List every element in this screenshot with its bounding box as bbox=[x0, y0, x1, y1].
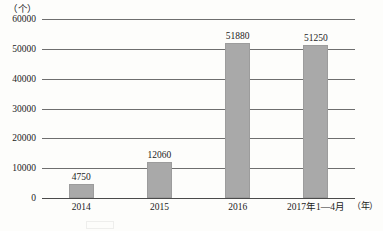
bar-value-label: 51250 bbox=[286, 33, 346, 44]
scan-artifact bbox=[86, 221, 114, 229]
x-axis-tick-label: 2014 bbox=[36, 201, 126, 213]
axis-baseline bbox=[42, 198, 355, 199]
bar-value-label: 4750 bbox=[51, 172, 111, 183]
bar bbox=[225, 43, 250, 198]
y-axis-tick-label: 10000 bbox=[2, 163, 36, 173]
y-axis-tick-label: 60000 bbox=[2, 14, 36, 24]
bar-chart: （个） 60000 50000 40000 30000 20000 10000 … bbox=[0, 0, 383, 231]
x-axis-unit-label: （年） bbox=[352, 199, 378, 212]
y-axis-tick-label: 20000 bbox=[2, 133, 36, 143]
y-axis-tick-label: 0 bbox=[2, 193, 36, 203]
y-axis-tick-label: 30000 bbox=[2, 104, 36, 114]
x-axis-tick-label: 2017年1—4月 bbox=[271, 201, 361, 213]
y-axis-tick-label: 40000 bbox=[2, 74, 36, 84]
x-axis-tick-label: 2016 bbox=[193, 201, 283, 213]
gridline bbox=[42, 19, 355, 20]
bar bbox=[69, 184, 94, 198]
y-axis-unit-label: （个） bbox=[8, 1, 37, 15]
bar-value-label: 12060 bbox=[129, 150, 189, 161]
x-axis-tick-label: 2015 bbox=[114, 201, 204, 213]
bar bbox=[147, 162, 172, 198]
y-axis-tick-label: 50000 bbox=[2, 44, 36, 54]
bar bbox=[303, 45, 328, 198]
bar-value-label: 51880 bbox=[208, 31, 268, 42]
